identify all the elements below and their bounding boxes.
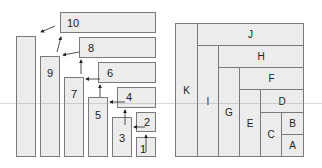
arrow-9-10 — [57, 37, 61, 52]
cell-k: K — [175, 23, 198, 157]
cell-e-label: E — [247, 118, 254, 129]
cell-b-label: B — [289, 118, 296, 129]
cell-h-label: H — [257, 51, 264, 62]
cell-c: C — [260, 112, 282, 157]
cell-i: I — [197, 45, 219, 157]
scan-artifact-line — [0, 103, 322, 104]
cell-j-label: J — [248, 29, 253, 40]
cell-c-label: C — [267, 129, 274, 140]
cell-j: J — [197, 23, 304, 46]
cell-a: A — [281, 134, 304, 157]
cell-b: B — [281, 112, 304, 135]
cell-d-label: D — [278, 96, 285, 107]
cell-e: E — [239, 89, 261, 157]
arrow-10-tall — [41, 26, 55, 32]
cell-i-label: I — [207, 96, 210, 107]
cell-f: F — [239, 67, 304, 90]
cell-h: H — [218, 45, 304, 68]
cell-a-label: A — [289, 140, 296, 151]
cell-d: D — [260, 89, 304, 113]
cell-g-label: G — [225, 107, 233, 118]
arrow-8-9 — [63, 52, 79, 55]
cell-k-label: K — [183, 85, 190, 96]
cell-f-label: F — [268, 73, 274, 84]
cell-g: G — [218, 67, 240, 157]
